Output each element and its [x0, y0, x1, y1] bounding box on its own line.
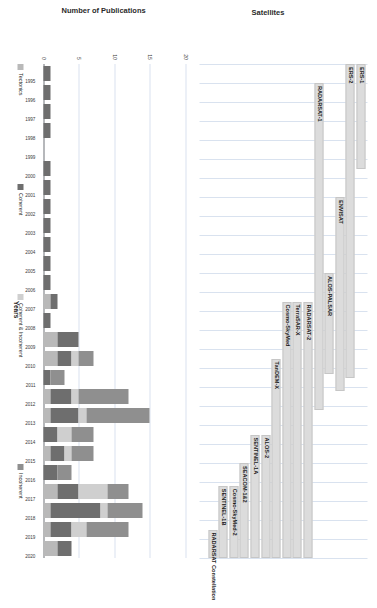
stacked-bar — [43, 199, 50, 214]
bar-segment — [43, 313, 50, 328]
stacked-bar — [43, 66, 50, 81]
bar-segment — [71, 446, 92, 461]
stacked-bar — [43, 237, 50, 252]
bar-segment — [107, 484, 128, 499]
legend-item: Coherent — [17, 184, 23, 215]
gridline — [199, 64, 367, 65]
satellite-name-label: SENTINEL-1B — [218, 489, 227, 526]
stacked-bar — [43, 85, 50, 100]
satellite-name-label: Cosmo-SkyMed-2 — [229, 489, 238, 536]
bar-segment — [50, 294, 57, 309]
stacked-bar — [43, 541, 71, 556]
bar-segment — [57, 351, 71, 366]
year-tick-label: 1999 — [25, 155, 35, 160]
bar-segment — [50, 370, 64, 385]
bar-segment — [86, 522, 129, 537]
year-tick-label: 2004 — [25, 250, 35, 255]
legend-label: Coherent & Incoherent — [17, 303, 23, 357]
stacked-bar — [43, 427, 93, 442]
bar-segment — [43, 351, 57, 366]
bar-segment — [43, 123, 50, 138]
stacked-bar — [43, 389, 128, 404]
year-tick-label: 2012 — [25, 402, 35, 407]
bar-segment — [43, 370, 50, 385]
publications-panel: Number of Publications 05101520199519961… — [7, 0, 189, 608]
bar-segment — [43, 237, 50, 252]
gridline — [199, 102, 367, 103]
satellite-span-bar — [345, 64, 354, 378]
bar-segment — [43, 275, 50, 290]
satellite-name-label: TerraSAR-X — [292, 305, 301, 336]
bar-segment — [79, 351, 93, 366]
year-tick-label: 2010 — [25, 364, 35, 369]
gridline — [199, 159, 367, 160]
year-tick-label: 2006 — [25, 288, 35, 293]
satellite-name-label: SEACOM-1&2 — [239, 466, 248, 503]
stacked-bar — [43, 218, 50, 233]
year-tick-label: 2018 — [25, 516, 35, 521]
stacked-bar — [43, 465, 71, 480]
legend-item: Tectonics — [17, 64, 23, 95]
satellite-name-label: TanDEM-X — [271, 362, 280, 390]
legend-swatch — [17, 64, 23, 70]
publications-plot: 0510152019951996199719981999200020012002… — [43, 64, 185, 558]
bar-segment — [43, 427, 57, 442]
year-tick-label: 1997 — [25, 117, 35, 122]
satellite-name-label: RADARSAT Constellation — [208, 533, 217, 601]
bar-segment — [57, 427, 71, 442]
year-tick-label: 1998 — [25, 136, 35, 141]
bar-segment — [50, 408, 78, 423]
stacked-bar — [43, 275, 50, 290]
chart-legend: TectonicsCoherentCoherent & IncoherentIn… — [9, 64, 23, 588]
bar-segment — [57, 465, 71, 480]
year-tick-label: 2009 — [25, 345, 35, 350]
y-tick-label: 20 — [182, 46, 188, 60]
satellite-span-bar — [335, 197, 344, 391]
year-tick-label: 2005 — [25, 269, 35, 274]
y-tick-label: 5 — [76, 46, 82, 60]
bar-segment — [43, 389, 50, 404]
y-tick-label: 0 — [40, 46, 46, 60]
satellite-name-label: ERS-2 — [345, 67, 354, 83]
year-tick-label: 2002 — [25, 212, 35, 217]
stacked-bar — [43, 180, 50, 195]
satellite-timeline-plot: ERS-1ERS-2ENVISATALOS-PALSARRADARSAT-1RA… — [199, 64, 367, 558]
bar-segment — [64, 446, 71, 461]
legend-label: Coherent — [17, 193, 23, 215]
y-tick-label: 10 — [111, 46, 117, 60]
year-tick-label: 2017 — [25, 497, 35, 502]
bar-segment — [43, 85, 50, 100]
legend-label: Tectonics — [17, 73, 23, 95]
year-tick-label: 2003 — [25, 231, 35, 236]
year-tick-label: 1996 — [25, 98, 35, 103]
year-tick-label: 2001 — [25, 193, 35, 198]
bar-segment — [57, 332, 78, 347]
year-tick-label: 2007 — [25, 307, 35, 312]
year-tick-label: 2016 — [25, 478, 35, 483]
bar-segment — [43, 503, 50, 518]
bar-segment — [57, 541, 71, 556]
satellite-name-label: ENVISAT — [335, 200, 344, 224]
legend-label: Incoherent — [17, 473, 23, 498]
gridline — [199, 83, 367, 84]
y-tick-label: 15 — [147, 46, 153, 60]
bar-segment — [43, 199, 50, 214]
bar-segment — [79, 389, 129, 404]
stacked-bar — [43, 351, 93, 366]
bar-segment — [100, 503, 107, 518]
figure-canvas: Satellites ERS-1ERS-2ENVISATALOS-PALSARR… — [0, 0, 377, 608]
gridline — [199, 140, 367, 141]
stacked-bar — [43, 484, 128, 499]
satellite-name-label: ALOS-2 — [261, 438, 270, 459]
bar-segment — [43, 332, 57, 347]
gridline — [199, 121, 367, 122]
stacked-bar — [43, 294, 57, 309]
bar-segment — [50, 503, 100, 518]
bar-segment — [43, 104, 50, 119]
stacked-bar — [43, 503, 142, 518]
year-tick-label: 2008 — [25, 326, 35, 331]
bar-segment — [79, 408, 86, 423]
bar-segment — [43, 218, 50, 233]
year-tick-label: 2014 — [25, 440, 35, 445]
bar-segment — [50, 522, 71, 537]
